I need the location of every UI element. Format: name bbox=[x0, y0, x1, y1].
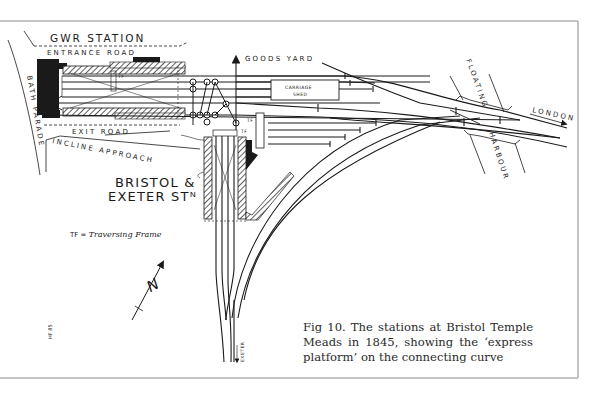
tf-label-3: TF bbox=[240, 129, 247, 134]
legend-equals: = bbox=[78, 231, 88, 239]
carriage-shed-label: CARRIAGE bbox=[285, 85, 312, 90]
carriage-shed-label-2: SHED bbox=[293, 92, 308, 97]
incline-approach-label: INCLINE APPROACH bbox=[52, 137, 155, 165]
gwr-station-label: GWR STATION bbox=[50, 32, 145, 44]
entrance-road-label: ENTRANCE ROAD bbox=[47, 49, 136, 57]
gwr-station-building bbox=[37, 57, 185, 119]
tf-label-2: TF bbox=[246, 118, 253, 123]
north-arrow: N bbox=[132, 262, 163, 320]
figure-caption: Fig 10. The stations at Bristol Temple M… bbox=[303, 320, 533, 365]
legend-meaning: Traversing Frame bbox=[89, 230, 162, 239]
traversing-frame bbox=[256, 113, 264, 148]
legend: TF = Traversing Frame bbox=[70, 230, 162, 239]
exit-road-label: EXIT ROAD bbox=[72, 128, 130, 136]
goods-yard-label: GOODS YARD bbox=[245, 55, 314, 63]
diagram-stage: CARRIAGE SHED bbox=[0, 0, 609, 402]
bristol-exeter-label: BRISTOL & bbox=[115, 175, 196, 190]
carriage-shed: CARRIAGE SHED bbox=[271, 80, 339, 100]
exeter-station-label: EXETER STᴺ bbox=[108, 189, 197, 204]
exeter-label: EXETER bbox=[240, 342, 245, 363]
floating-harbour bbox=[450, 74, 525, 174]
artist-initials: HF 85 bbox=[47, 324, 53, 339]
tf-label-1: TF bbox=[117, 74, 124, 79]
harbour-label: HARBOUR bbox=[487, 131, 510, 182]
